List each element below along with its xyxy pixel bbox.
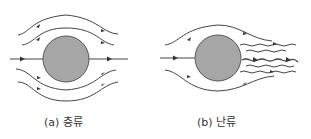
wake-line-1 <box>240 44 296 46</box>
panel-a-laminar <box>10 15 128 101</box>
wake-line-2 <box>246 50 286 52</box>
caption-turbulent: (b) 난류 <box>197 113 236 129</box>
cylinder-obstacle-b <box>195 35 241 81</box>
cylinder-obstacle-a <box>43 36 89 82</box>
wake-line-4 <box>246 65 294 67</box>
wake-line-5 <box>240 71 296 73</box>
caption-laminar: (a) 층류 <box>44 113 83 129</box>
panel-b-turbulent <box>160 25 298 91</box>
streamline-top-outer <box>18 15 118 35</box>
flow-around-cylinder-figure: (a) 층류 (b) 난류 <box>0 0 311 139</box>
